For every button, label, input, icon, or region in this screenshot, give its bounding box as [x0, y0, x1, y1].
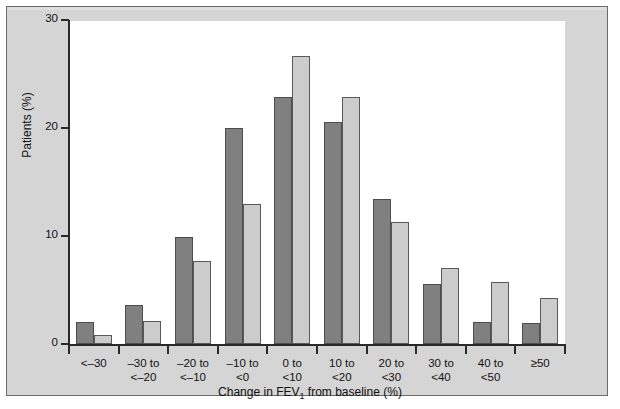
y-axis-tick	[61, 127, 69, 129]
bar-light-5	[342, 97, 360, 344]
bar-light-8	[491, 282, 509, 344]
x-axis-tick	[316, 346, 318, 354]
y-axis-tick-label: 10	[0, 229, 58, 240]
x-axis-title: Change in FEV1 from baseline (%)	[0, 385, 620, 401]
x-axis-tick	[68, 346, 70, 354]
chart-figure: 0102030 <–30–30 to <–20–20 to <–10–10 to…	[0, 0, 620, 409]
y-axis-tick-label-text: 30	[2, 13, 58, 24]
bar-dark-2	[175, 237, 193, 344]
y-axis-tick	[61, 343, 69, 345]
bar-light-3	[243, 204, 261, 344]
y-axis-tick	[61, 235, 69, 237]
y-axis-tick-label-text: 10	[2, 229, 58, 240]
bar-dark-7	[423, 284, 441, 344]
y-axis-tick-label: 30	[0, 13, 58, 24]
bar-dark-9	[522, 323, 540, 344]
x-axis-category-label: ≥50	[500, 357, 580, 371]
bar-dark-5	[324, 122, 342, 344]
x-axis-tick	[366, 346, 368, 354]
y-axis-title: Patients (%)	[20, 60, 34, 190]
x-axis-tick	[118, 346, 120, 354]
x-axis-tick	[514, 346, 516, 354]
bar-dark-1	[125, 305, 143, 344]
x-axis-title-suffix: from baseline (%)	[305, 385, 402, 399]
bar-light-4	[292, 56, 310, 344]
bar-light-0	[94, 335, 112, 344]
y-axis-tick-label-text: 0	[2, 337, 58, 348]
y-axis-tick	[61, 19, 69, 21]
y-axis-tick-label: 0	[0, 337, 58, 348]
x-axis-tick	[217, 346, 219, 354]
bar-light-2	[193, 261, 211, 344]
bar-dark-6	[373, 199, 391, 344]
bar-light-9	[540, 298, 558, 344]
x-axis-title-prefix: Change in FEV	[218, 385, 299, 399]
panel-top-band	[7, 7, 607, 10]
x-axis-tick	[465, 346, 467, 354]
x-axis-tick	[167, 346, 169, 354]
bar-light-6	[391, 222, 409, 344]
x-axis-tick	[415, 346, 417, 354]
bar-dark-0	[76, 322, 94, 344]
x-axis-tick	[266, 346, 268, 354]
x-axis-tick	[564, 346, 566, 354]
bar-light-7	[441, 268, 459, 344]
bar-dark-3	[225, 128, 243, 344]
bar-dark-8	[473, 322, 491, 344]
y-axis-line	[68, 20, 70, 346]
bar-light-1	[143, 321, 161, 344]
bar-dark-4	[274, 97, 292, 344]
